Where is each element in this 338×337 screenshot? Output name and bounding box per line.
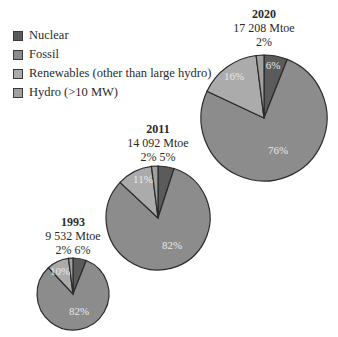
pie-2020-nuclear-label: 6% xyxy=(266,59,281,71)
pie-2020 xyxy=(201,55,327,181)
pie-2011 xyxy=(106,166,210,270)
pie-1993 xyxy=(37,258,109,330)
pie-2020-renewables-label: 16% xyxy=(224,70,244,82)
pie-2011-renewables-label: 11% xyxy=(133,173,153,185)
pie-charts: 10% 82% 11% 82% 6% 16% 76% xyxy=(0,0,338,337)
pie-1993-renewables-label: 10% xyxy=(50,265,70,277)
pie-2011-fossil-label: 82% xyxy=(162,239,182,251)
pie-2020-fossil-label: 76% xyxy=(268,144,288,156)
pie-1993-fossil-label: 82% xyxy=(69,305,89,317)
